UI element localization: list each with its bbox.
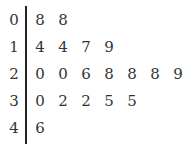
leaf-value: 2	[79, 88, 93, 115]
stem-value: 1	[8, 34, 20, 61]
stem-value: 0	[8, 7, 20, 34]
leaf-value: 9	[171, 61, 185, 88]
leaf-value: 6	[79, 61, 93, 88]
leaf-value: 8	[56, 7, 70, 34]
leaf-value: 8	[125, 61, 139, 88]
leaf-value: 6	[33, 115, 47, 142]
leaf-value: 5	[102, 88, 116, 115]
stem-row: 20068889	[0, 61, 194, 88]
leaf-value: 8	[148, 61, 162, 88]
stem-value: 3	[8, 88, 20, 115]
leaf-value: 4	[56, 34, 70, 61]
leaf-value: 8	[33, 7, 47, 34]
stem-value: 2	[8, 61, 20, 88]
leaf-value: 5	[125, 88, 139, 115]
stem-row: 14479	[0, 34, 194, 61]
leaf-value: 7	[79, 34, 93, 61]
leaf-value: 9	[102, 34, 116, 61]
stem-row: 088	[0, 7, 194, 34]
leaf-value: 2	[56, 88, 70, 115]
leaf-value: 8	[102, 61, 116, 88]
stem-row: 46	[0, 115, 194, 142]
stem-row: 302255	[0, 88, 194, 115]
leaf-value: 4	[33, 34, 47, 61]
stem-and-leaf-plot: 088144792006888930225546	[0, 0, 194, 144]
stem-value: 4	[8, 115, 20, 142]
leaf-value: 0	[33, 88, 47, 115]
leaf-value: 0	[56, 61, 70, 88]
leaf-value: 0	[33, 61, 47, 88]
